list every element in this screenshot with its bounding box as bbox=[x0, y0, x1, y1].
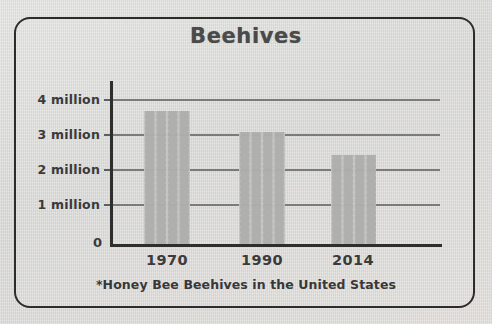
y-axis-label-1-million: 1 million bbox=[0, 197, 100, 212]
x-axis-label-2014: 2014 bbox=[308, 252, 398, 268]
bar-2014[interactable] bbox=[331, 155, 376, 244]
bar-1970[interactable] bbox=[144, 111, 190, 244]
chart-footnote: *Honey Bee Beehives in the United States bbox=[16, 277, 476, 292]
y-axis-line bbox=[110, 81, 113, 247]
y-axis-label-2-million: 2 million bbox=[0, 162, 100, 177]
plot-area: 4 million 3 million 2 million 1 million … bbox=[0, 0, 492, 324]
y-axis-label-zero: 0 bbox=[78, 235, 102, 250]
y-axis-label-3-million: 3 million bbox=[0, 127, 100, 142]
chart-screenshot: Beehives 4 million 3 million 2 million 1… bbox=[0, 0, 492, 324]
x-axis-label-1990: 1990 bbox=[217, 252, 307, 268]
gridline-4-million bbox=[113, 99, 440, 101]
bar-1990[interactable] bbox=[239, 132, 285, 244]
y-axis-label-4-million: 4 million bbox=[0, 92, 100, 107]
x-axis-label-1970: 1970 bbox=[122, 252, 212, 268]
x-axis-line bbox=[110, 244, 442, 247]
